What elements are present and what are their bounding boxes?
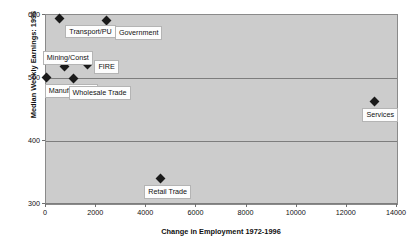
- data-point-marker: [42, 72, 52, 82]
- data-point-label: Mining/Const: [43, 51, 93, 65]
- data-point-label: Retail Trade: [144, 185, 191, 199]
- x-tick-label: 14000: [374, 209, 418, 216]
- y-axis-label: Median Weekly Earnings: 1996: [29, 0, 38, 145]
- data-point-label: FIRE: [94, 60, 118, 74]
- x-tick-label: 12000: [324, 209, 368, 216]
- x-tick-mark: [396, 204, 397, 207]
- data-point-marker: [54, 14, 64, 24]
- x-tick-label: 6000: [173, 209, 217, 216]
- x-tick-label: 0: [23, 209, 67, 216]
- x-tick-mark: [195, 204, 196, 207]
- data-point-marker: [69, 73, 79, 83]
- data-point-marker: [369, 97, 379, 107]
- data-point-label: Government: [115, 26, 163, 40]
- x-axis-line: [45, 203, 397, 204]
- x-tick-label: 10000: [274, 209, 318, 216]
- data-point-marker: [155, 174, 165, 184]
- x-tick-mark: [296, 204, 297, 207]
- x-axis-label: Change in Employment 1972-1996: [45, 227, 397, 236]
- x-tick-label: 4000: [123, 209, 167, 216]
- data-point-label: Transport/PU: [65, 25, 115, 39]
- x-tick-mark: [346, 204, 347, 207]
- scatter-chart: 300400500600 Median Weekly Earnings: 199…: [0, 0, 418, 242]
- x-tick-mark: [145, 204, 146, 207]
- gridline: [46, 141, 397, 142]
- x-tick-label: 8000: [224, 209, 268, 216]
- x-tick-mark: [45, 204, 46, 207]
- x-tick-mark: [246, 204, 247, 207]
- data-point-marker: [102, 15, 112, 25]
- gridline: [46, 78, 397, 79]
- data-point-label: Services: [362, 108, 398, 122]
- data-point-label: Wholesale Trade: [69, 86, 131, 100]
- y-tick-label: 300: [0, 200, 40, 207]
- plot-area: Transport/PUGovernmentMining/ConstFIREMa…: [45, 14, 398, 205]
- x-tick-mark: [95, 204, 96, 207]
- x-tick-label: 2000: [73, 209, 117, 216]
